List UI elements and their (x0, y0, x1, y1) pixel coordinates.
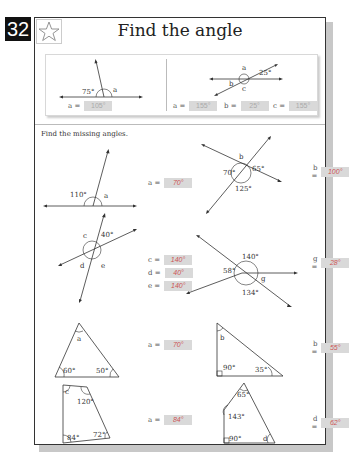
answer-box: 70° (164, 340, 192, 350)
svg-text:140°: 140° (242, 253, 259, 261)
answer-box: 105° (84, 101, 112, 111)
svg-text:72°: 72° (93, 431, 105, 439)
problem-5-diagram: a 60° 50° (52, 321, 132, 381)
answer-box: 100° (321, 167, 349, 177)
example-box: 75° a a = 105° a 25° b c a = 155° b = 25 (45, 54, 318, 116)
page-number: 32 (5, 17, 31, 41)
svg-text:120°: 120° (77, 398, 94, 406)
problem-4-answer: g = 28° (305, 255, 349, 271)
svg-text:d: d (80, 262, 85, 270)
svg-text:58°: 58° (223, 267, 235, 275)
svg-text:90°: 90° (223, 364, 235, 372)
svg-text:e: e (101, 262, 105, 270)
ex1-unknown-label: a (113, 86, 117, 94)
answer-box: 84° (164, 415, 192, 425)
problem-7-diagram: c 120° 84° 72° (60, 378, 140, 448)
problem-6-diagram: b 90° 35° (215, 321, 295, 381)
problem-6-answer: b = 55° (305, 340, 349, 356)
answer-box: 28° (321, 258, 349, 268)
svg-text:125°: 125° (235, 185, 252, 193)
answer-box: 155° (189, 101, 217, 111)
answer-box: 25° (241, 101, 269, 111)
problem-4-diagram: 140° 58° 134° g (180, 218, 295, 308)
svg-text:b: b (239, 153, 244, 161)
svg-text:c: c (65, 388, 69, 396)
ex1-given-label: 75° (82, 88, 94, 96)
svg-text:g: g (261, 275, 266, 283)
problem-7-answer: a = 84° (148, 415, 192, 425)
problem-2-diagram: b 65° 70° 125° (185, 133, 285, 213)
ex2-b-label: b (229, 80, 234, 88)
svg-text:90°: 90° (229, 435, 241, 443)
svg-text:40°: 40° (101, 231, 113, 239)
svg-text:a: a (104, 192, 108, 200)
worksheet: Find the angle 75° a a = 105° a 25° (34, 17, 326, 445)
svg-text:d: d (263, 435, 268, 443)
problem-8-diagram: 65° 143° 90° d (220, 378, 300, 448)
svg-text:84°: 84° (67, 434, 79, 442)
svg-text:70°: 70° (223, 169, 235, 177)
answer-box: 62° (321, 418, 349, 428)
problem-2-answer: b = 100° (305, 164, 349, 180)
ex2-given-label: 25° (259, 69, 271, 77)
section-divider (35, 124, 325, 125)
answer-box: 155° (289, 101, 317, 111)
ex2-a-label: a (242, 64, 246, 72)
ex2-c-label: c (242, 85, 246, 93)
svg-text:50°: 50° (96, 367, 108, 375)
problem-5-answer: a = 70° (148, 340, 192, 350)
ex2-answer-a: a = 155° (173, 101, 217, 111)
answer-box: 55° (321, 343, 349, 353)
problem-1-diagram: 110° a (40, 138, 140, 208)
ex2-answer-b: b = 25° (224, 101, 269, 111)
ex2-answer-c: c = 155° (273, 101, 317, 111)
svg-text:c: c (83, 232, 87, 240)
svg-text:65°: 65° (237, 391, 249, 399)
svg-text:b: b (220, 334, 225, 342)
svg-text:143°: 143° (228, 413, 245, 421)
svg-text:35°: 35° (255, 366, 267, 374)
svg-text:110°: 110° (70, 191, 87, 199)
svg-text:65°: 65° (252, 165, 264, 173)
svg-text:134°: 134° (242, 289, 259, 297)
page-title: Find the angle (35, 20, 325, 40)
svg-text:a: a (77, 335, 81, 343)
instructions: Find the missing angles. (41, 130, 128, 138)
ex1-answer: a = 105° (68, 101, 112, 111)
svg-text:60°: 60° (63, 367, 75, 375)
problem-3-diagram: c 40° d e (55, 213, 155, 303)
problem-8-answer: d = 62° (305, 415, 349, 431)
